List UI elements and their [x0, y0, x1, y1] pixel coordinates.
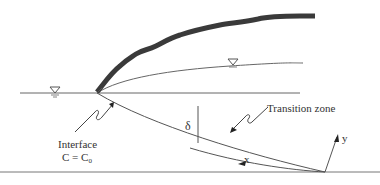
y-axis-line	[325, 137, 337, 172]
interface-condition-subscript: 0	[88, 157, 92, 165]
ground-surface	[97, 16, 315, 92]
y-axis-arrow-icon	[334, 134, 339, 142]
water-table-curve	[97, 63, 303, 93]
delta-label: δ	[185, 119, 191, 133]
transition-lower-curve	[190, 148, 325, 172]
interface-condition-label: C = C0	[62, 151, 92, 165]
interface-condition-text: C = C	[62, 151, 88, 163]
x-axis-label: x	[244, 153, 250, 165]
diagram-canvas: Interface C = C0 Transition zone δ x y	[0, 0, 380, 185]
transition-arrowhead-icon	[230, 127, 237, 133]
transition-zone-label: Transition zone	[267, 102, 335, 114]
transition-pointer	[234, 107, 268, 128]
interface-label: Interface	[58, 138, 97, 150]
sea-level-marker-icon	[50, 87, 60, 97]
interface-pointer	[75, 104, 113, 132]
y-axis-label: y	[342, 132, 348, 144]
